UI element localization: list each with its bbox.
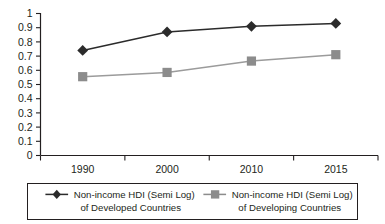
- y-tick-label-1: 1: [27, 7, 33, 19]
- y-axis-tick-labels: 00.10.20.30.40.50.60.70.80.91: [18, 7, 33, 161]
- series-line: [83, 23, 336, 50]
- data-point-square-2015: [331, 50, 340, 59]
- legend-marker-square-icon: [211, 190, 219, 198]
- x-tick-label-2000: 2000: [155, 163, 179, 175]
- chart-legend: Non-income HDI (Semi Log) of Developed C…: [27, 183, 358, 220]
- x-axis-ticks: [41, 156, 379, 161]
- x-axis-tick-labels: 1990200020102015: [71, 163, 348, 175]
- series-developing-countries: [78, 50, 340, 81]
- y-tick-label-0.2: 0.2: [18, 121, 33, 133]
- legend-label-developing-line2: of Developing Countries: [238, 202, 341, 213]
- y-tick-label-0.1: 0.1: [18, 135, 33, 147]
- data-point-diamond-1990: [77, 45, 88, 56]
- data-point-square-1990: [78, 72, 87, 81]
- data-point-diamond-2015: [330, 18, 341, 29]
- x-tick-label-1990: 1990: [71, 163, 95, 175]
- y-axis-ticks: [36, 14, 41, 156]
- legend-marker-diamond-icon: [53, 190, 61, 199]
- data-point-diamond-2010: [246, 21, 257, 32]
- data-point-square-2000: [162, 68, 171, 77]
- y-tick-label-0.6: 0.6: [18, 64, 33, 76]
- data-point-square-2010: [247, 56, 256, 65]
- legend-label-developed-line2: of Developed Countries: [80, 202, 181, 213]
- chart-container: 00.10.20.30.40.50.60.70.80.91 1990200020…: [0, 0, 385, 224]
- y-tick-label-0.5: 0.5: [18, 78, 33, 90]
- legend-content: Non-income HDI (Semi Log) of Developed C…: [28, 184, 357, 219]
- series-line: [83, 55, 336, 77]
- y-tick-label-0: 0: [27, 149, 33, 161]
- y-tick-label-0.7: 0.7: [18, 50, 33, 62]
- x-tick-label-2010: 2010: [240, 163, 264, 175]
- legend-label-developing-line1: Non-income HDI (Semi Log): [232, 189, 353, 200]
- data-point-diamond-2000: [162, 27, 173, 38]
- legend-label-developed-line1: Non-income HDI (Semi Log): [74, 189, 195, 200]
- x-tick-label-2015: 2015: [324, 163, 348, 175]
- y-tick-label-0.3: 0.3: [18, 107, 33, 119]
- series-developed-countries: [77, 18, 341, 56]
- y-tick-label-0.9: 0.9: [18, 21, 33, 33]
- y-tick-label-0.4: 0.4: [18, 92, 33, 104]
- y-tick-label-0.8: 0.8: [18, 36, 33, 48]
